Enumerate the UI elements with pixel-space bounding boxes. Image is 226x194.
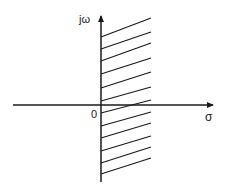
origin-label: 0 [91, 108, 97, 120]
s-plane-diagram: jω 0 σ [0, 0, 226, 194]
hatch-line [101, 112, 151, 126]
hatch-line [101, 123, 151, 138]
jw-axis-label: jω [78, 13, 90, 25]
hatch-line [101, 43, 151, 61]
hatch-line [101, 100, 151, 113]
hatch-line [101, 136, 151, 151]
hatch-line [101, 72, 151, 88]
hatched-region [101, 18, 151, 174]
sigma-axis-label: σ [205, 110, 213, 124]
hatch-line [101, 58, 151, 74]
hatch-line [101, 87, 151, 101]
